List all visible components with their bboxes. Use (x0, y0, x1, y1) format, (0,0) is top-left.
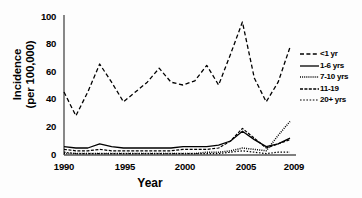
legend-label-11to19: 11-19 (320, 84, 339, 93)
series-layer (64, 22, 290, 154)
legend-label-1to6yrs: 1-6 yrs (320, 61, 344, 70)
incidence-by-age-line-chart: Incidence (per 100,000) 100 80 60 40 20 … (0, 0, 362, 198)
legend-label-lt1yr: <1 yr (320, 49, 338, 58)
legend-swatch-dashed-icon (300, 49, 319, 58)
legend: <1 yr 1-6 yrs 7-10 yrs 11-19 20+ yrs (300, 48, 348, 106)
legend-item-1to6yrs[interactable]: 1-6 yrs (300, 60, 348, 72)
legend-swatch-dotted-icon (300, 72, 319, 81)
legend-swatch-dashdot-icon (300, 84, 319, 93)
legend-item-7to10yrs[interactable]: 7-10 yrs (300, 71, 348, 83)
legend-label-20plusyrs: 20+ yrs (320, 95, 346, 104)
legend-item-lt1yr[interactable]: <1 yr (300, 48, 348, 60)
legend-item-20plusyrs[interactable]: 20+ yrs (300, 94, 348, 106)
legend-swatch-finedot-icon (300, 95, 319, 104)
series-line-1-yr (64, 22, 290, 116)
legend-label-7to10yrs: 7-10 yrs (320, 72, 348, 81)
series-line-7-10-yrs (64, 121, 290, 153)
legend-swatch-solid-icon (300, 61, 319, 70)
legend-item-11to19[interactable]: 11-19 (300, 83, 348, 95)
